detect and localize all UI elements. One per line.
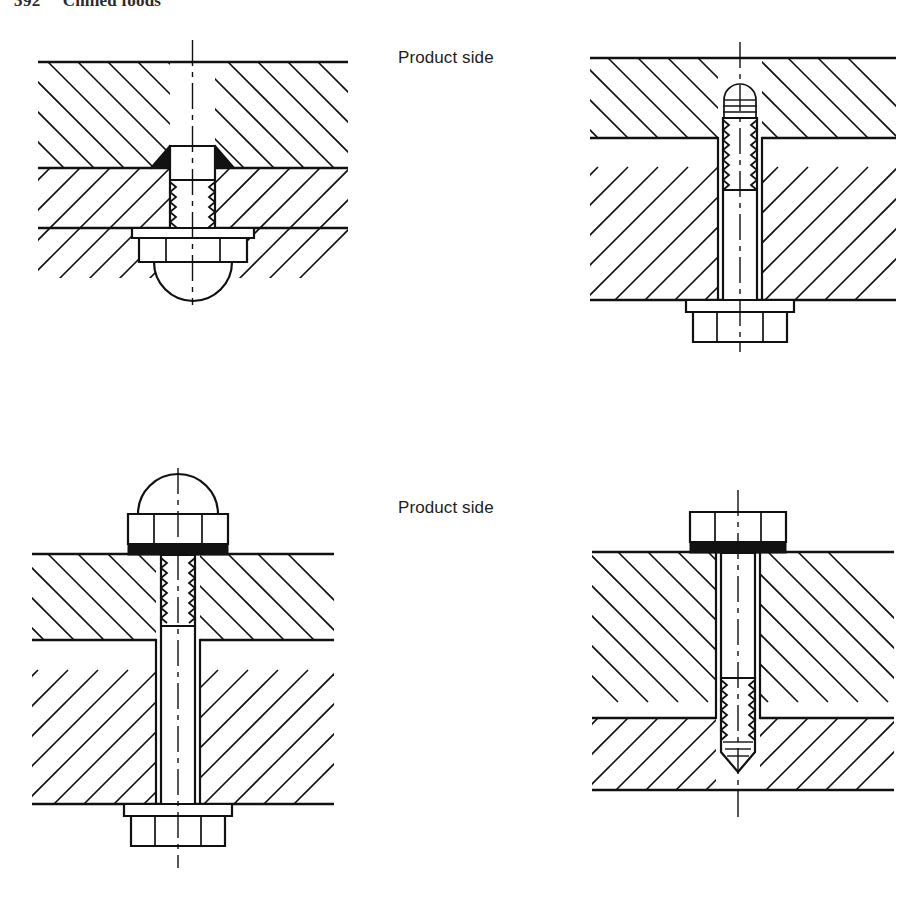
countersunk-bolt-through-joint-drawing: [18, 40, 368, 305]
stud-with-domed-cap-nut-drawing: [18, 468, 348, 868]
figure-bottom-left: [18, 468, 348, 868]
running-head-title: Chilled foods: [63, 0, 161, 11]
stud-recessed-below-surface-drawing: [578, 42, 908, 352]
hex-bolt-into-blind-tapped-hole-drawing: [578, 490, 908, 820]
figure-bottom-right: [578, 490, 908, 820]
page-number: 392: [14, 0, 41, 11]
figure-top-right: [578, 42, 908, 352]
caption-product-side-bottom: Product side: [398, 498, 494, 518]
figure-page: 392 Chilled foods Product side Product s…: [0, 0, 911, 902]
bolt-shank: [721, 553, 755, 678]
caption-product-side-top: Product side: [398, 48, 494, 68]
running-head: 392 Chilled foods: [14, 0, 161, 11]
figure-top-left: [18, 40, 368, 305]
